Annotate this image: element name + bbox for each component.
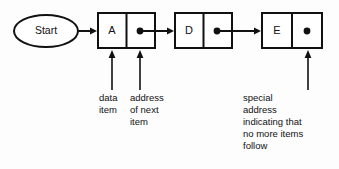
arrowhead-up-icon [137,50,144,58]
callout-data-item-line-2: item [99,104,117,115]
node-e-null-pointer-dot [304,28,311,35]
linked-list-diagram: Start A D [0,0,339,169]
callout-label-special-address: special address indicating that no more … [243,92,303,151]
node-d-data-label: D [185,24,193,36]
callout-address-line-2: of next [130,104,159,115]
list-node-e: E [262,13,322,48]
callout-label-data-item: data item [99,92,118,115]
start-label: Start [35,24,57,36]
node-e-data-label: E [273,24,280,36]
callout-special-line-3: indicating that [243,116,302,127]
arrow-start-to-node-a [78,28,97,35]
arrowhead-up-icon [109,50,116,58]
start-node: Start [14,15,78,47]
callout-special-line-5: follow [243,140,267,151]
callout-address-line-1: address [130,92,164,103]
callout-special-line-2: address [243,104,277,115]
callout-address-line-3: item [130,116,148,127]
arrowhead-icon [167,28,174,35]
diagram-canvas: Start A D [0,0,339,169]
arrowhead-icon [90,28,97,35]
callout-special-line-4: no more items [243,128,303,139]
node-a-data-label: A [108,24,116,36]
callout-special-line-1: special [243,92,273,103]
callout-arrow-address-of-next [137,50,144,90]
callout-data-item-line-1: data [99,92,118,103]
callout-arrow-special-address [305,50,312,90]
arrowhead-icon [254,28,261,35]
callout-label-address-of-next: address of next item [130,92,164,127]
arrowhead-up-icon [305,50,312,58]
callout-arrow-data-item [109,50,116,90]
